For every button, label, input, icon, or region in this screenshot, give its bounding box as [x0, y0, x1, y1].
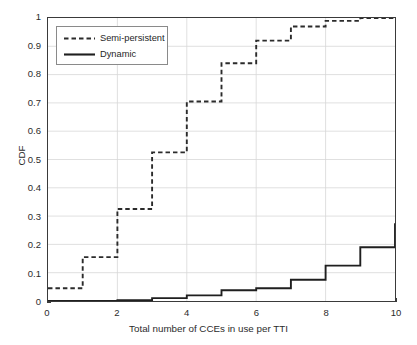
y-tick-label: 0.1	[8, 269, 41, 279]
legend-swatch-solid	[64, 53, 95, 56]
x-tick-label: 8	[311, 308, 341, 318]
x-tick-label: 4	[172, 308, 202, 318]
x-tick-label: 10	[381, 308, 411, 318]
y-tick-label: 0.7	[8, 98, 41, 108]
legend-label-semi-persistent: Semi-persistent	[100, 33, 165, 44]
x-tick-mark	[396, 298, 397, 302]
legend-swatch-dashed	[64, 37, 95, 40]
x-tick-label: 0	[32, 308, 62, 318]
y-tick-mark	[47, 302, 51, 303]
y-axis-label: CDF	[16, 126, 27, 186]
x-axis-label: Total number of CCEs in use per TTI	[0, 323, 417, 334]
y-tick-label: 0.2	[8, 240, 41, 250]
legend-entry-dynamic: Dynamic	[57, 47, 169, 62]
cdf-chart-figure: 00.10.20.30.40.50.60.70.80.91 0246810 CD…	[0, 0, 417, 345]
y-tick-label: 0.9	[8, 41, 41, 51]
y-tick-label: 1	[8, 12, 41, 22]
y-tick-label: 0	[8, 297, 41, 307]
series-dynamic	[48, 223, 395, 301]
x-tick-label: 6	[241, 308, 271, 318]
x-tick-label: 2	[102, 308, 132, 318]
y-tick-label: 0.8	[8, 69, 41, 79]
legend-label-dynamic: Dynamic	[100, 49, 136, 60]
chart-legend: Semi-persistent Dynamic	[56, 26, 168, 65]
y-tick-label: 0.3	[8, 212, 41, 222]
legend-entry-semi-persistent: Semi-persistent	[57, 31, 169, 46]
